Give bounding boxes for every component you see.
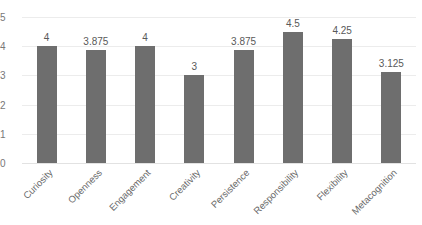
bar[interactable] (86, 50, 106, 163)
bar-group[interactable]: 4.25 (318, 17, 367, 163)
bar-value-label: 3 (192, 61, 198, 72)
x-axis-category-label: Responsibility (251, 167, 300, 216)
bar[interactable] (381, 72, 401, 163)
x-axis-category-label: Creativity (166, 167, 202, 203)
bar[interactable] (283, 32, 303, 163)
y-axis-tick-label: 0 (0, 158, 18, 169)
bar-value-label: 3.875 (231, 36, 256, 47)
bar[interactable] (135, 46, 155, 163)
bar-value-label: 4 (44, 32, 50, 43)
x-axis-category-label: Persistence (209, 167, 252, 210)
x-axis-category-label: Curiosity (20, 167, 54, 201)
bar[interactable] (37, 46, 57, 163)
bar-group[interactable]: 3 (170, 17, 219, 163)
bar-value-label: 4 (142, 32, 148, 43)
y-axis-tick-label: 5 (0, 12, 18, 23)
bar-group[interactable]: 4 (121, 17, 170, 163)
x-axis-category-label: Openness (65, 167, 103, 205)
x-axis-category-label: Flexibility (315, 167, 350, 202)
y-axis-tick-label: 3 (0, 70, 18, 81)
x-axis-category-label: Metacognition (350, 167, 400, 217)
y-axis-tick-label: 1 (0, 128, 18, 139)
bar-chart: 012345 43.875433.8754.54.253.125 Curiosi… (0, 0, 422, 225)
bar[interactable] (332, 39, 352, 163)
bar[interactable] (234, 50, 254, 163)
bar-group[interactable]: 3.875 (219, 17, 268, 163)
bar-value-label: 4.25 (332, 25, 351, 36)
bars-layer: 43.875433.8754.54.253.125 (22, 17, 416, 163)
y-axis-tick-label: 2 (0, 99, 18, 110)
plot-area: 012345 43.875433.8754.54.253.125 (22, 17, 416, 163)
bar-group[interactable]: 3.125 (367, 17, 416, 163)
x-axis-category-label: Engagement (107, 167, 153, 213)
bar-value-label: 3.125 (379, 58, 404, 69)
y-axis-tick-label: 4 (0, 41, 18, 52)
x-axis-categories: CuriosityOpennessEngagementCreativityPer… (22, 165, 416, 223)
bar[interactable] (184, 75, 204, 163)
bar-group[interactable]: 4 (22, 17, 71, 163)
bar-group[interactable]: 3.875 (71, 17, 120, 163)
bar-value-label: 4.5 (286, 18, 300, 29)
gridline (22, 163, 416, 164)
bar-group[interactable]: 4.5 (268, 17, 317, 163)
bar-value-label: 3.875 (83, 36, 108, 47)
